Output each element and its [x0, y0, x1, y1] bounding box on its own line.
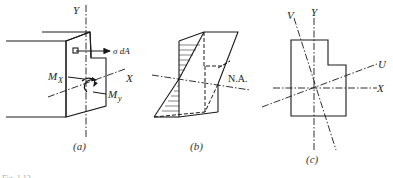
c-y-axis-label: Y	[311, 6, 319, 18]
panel-a-caption: (a)	[73, 140, 86, 153]
stress-block-hatch-bottom	[162, 86, 179, 111]
figure-caption-fragment: Fig. 1.13	[2, 174, 31, 178]
panel-c-caption: (c)	[306, 153, 319, 166]
c-v-axis-line	[294, 18, 336, 150]
c-u-axis-line	[262, 64, 377, 107]
moment-y-subscript: y	[117, 94, 122, 103]
x-axis-label: X	[125, 72, 134, 84]
moment-x-subscript: X	[57, 76, 64, 85]
panel-b-caption: (b)	[190, 140, 203, 153]
c-u-axis-label: U	[378, 58, 387, 70]
y-axis-label: Y	[73, 4, 81, 16]
c-v-axis-label: V	[287, 9, 295, 21]
moment-x-label: M	[47, 70, 58, 82]
panel-b: N.A. (b)	[152, 32, 250, 153]
c-x-axis-label: X	[376, 82, 385, 94]
figure-canvas: Y X σ dA M X M y (a)	[0, 0, 393, 178]
neutral-axis-label: N.A.	[228, 73, 247, 84]
panel-c: Y X V U (c)	[262, 6, 387, 166]
moment-y-label: M	[107, 88, 118, 100]
panel-a: Y X σ dA M X M y (a)	[6, 4, 134, 153]
cross-section-outline	[291, 40, 346, 116]
stress-force-label: σ dA	[113, 46, 130, 56]
